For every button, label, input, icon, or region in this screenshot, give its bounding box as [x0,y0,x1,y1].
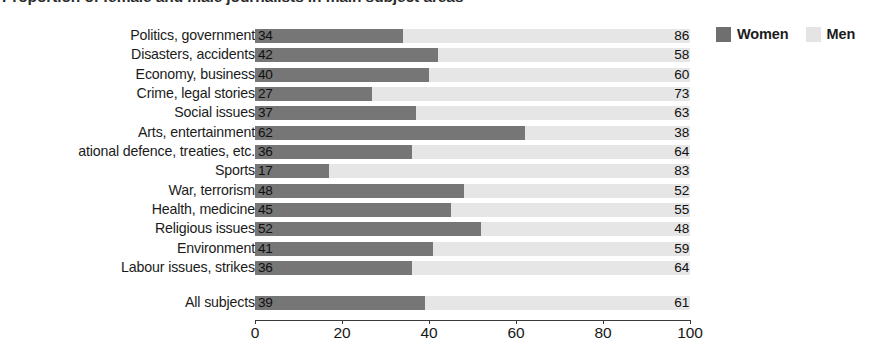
bar-row-cat-3: Crime, legal stories2773 [0,87,892,101]
category-label: All subjects [0,294,255,311]
axis-tick-label: 0 [251,324,259,342]
value-label-men: 52 [651,183,689,199]
bar-row-cat-1: Disasters, accidents4258 [0,48,892,62]
value-label-men: 60 [651,67,689,83]
category-label: ational defence, treaties, etc. [0,143,255,160]
value-label-men: 61 [651,295,689,311]
bar-row-cat-7: Sports1783 [0,164,892,178]
bar-segment-men [255,126,690,140]
bar-segment-men [255,242,690,256]
bar-segment-women [255,222,481,236]
bar-segment-women [255,106,416,120]
value-label-men: 63 [651,105,689,121]
value-label-women: 48 [258,183,273,199]
bar-row-cat-0: Politics, government3486 [0,29,892,43]
category-label: Crime, legal stories [0,85,255,102]
bar-segment-women [255,29,403,43]
category-label: War, terrorism [0,182,255,199]
bar-segment-men [255,145,690,159]
category-label: Politics, government [0,27,255,44]
category-label: Disasters, accidents [0,46,255,63]
bar-row-cat-12: Labour issues, strikes3664 [0,261,892,275]
bar-segment-women [255,145,412,159]
bar-segment-women [255,48,438,62]
bar-segment-men [255,222,690,236]
value-label-women: 17 [258,163,273,179]
bar-row-cat-4: Social issues3763 [0,106,892,120]
axis-tick-label: 60 [508,324,525,342]
value-label-men: 83 [651,163,689,179]
value-label-women: 42 [258,47,273,63]
value-label-men: 48 [651,221,689,237]
bar-row-cat-9: Health, medicine4555 [0,203,892,217]
bar-segment-men [255,261,690,275]
category-label: Economy, business [0,66,255,83]
value-label-men: 58 [651,47,689,63]
bar-segment-men [255,106,690,120]
bar-segment-men [255,296,690,310]
value-label-men: 55 [651,202,689,218]
axis-line [255,320,690,321]
category-label: Social issues [0,104,255,121]
category-label: Environment [0,240,255,257]
bar-segment-men [255,87,690,101]
bar-row-cat-5: Arts, entertainment6238 [0,126,892,140]
bar-segment-women [255,184,464,198]
value-label-men: 59 [651,241,689,257]
bar-row-cat-8: War, terrorism4852 [0,184,892,198]
x-axis: 020406080100 [255,320,690,346]
chart-figure: Proportion of female and male journalist… [0,0,892,348]
value-label-women: 36 [258,260,273,276]
value-label-men: 38 [651,125,689,141]
value-label-men: 86 [651,28,689,44]
bar-segment-men [255,184,690,198]
value-label-women: 27 [258,86,273,102]
axis-tick-label: 100 [677,324,702,342]
value-label-men: 73 [651,86,689,102]
category-label: Labour issues, strikes [0,259,255,276]
value-label-women: 36 [258,144,273,160]
bar-row-all-subjects: All subjects3961 [0,296,892,310]
bar-segment-women [255,242,433,256]
category-label: Arts, entertainment [0,124,255,141]
value-label-women: 41 [258,241,273,257]
value-label-women: 34 [258,28,273,44]
axis-tick-label: 80 [595,324,612,342]
bar-segment-men [255,68,690,82]
bar-segment-women [255,296,425,310]
bar-segment-men [255,29,690,43]
bar-segment-women [255,68,429,82]
value-label-men: 64 [651,144,689,160]
axis-tick-label: 40 [421,324,438,342]
bar-segment-men [255,164,690,178]
bar-segment-men [255,203,690,217]
value-label-women: 40 [258,67,273,83]
category-label: Sports [0,162,255,179]
axis-tick-label: 20 [334,324,351,342]
bar-row-cat-10: Religious issues5248 [0,222,892,236]
plot-area: Politics, government3486Disasters, accid… [0,0,892,348]
value-label-women: 62 [258,125,273,141]
value-label-women: 39 [258,295,273,311]
bar-row-cat-6: ational defence, treaties, etc.3664 [0,145,892,159]
value-label-women: 37 [258,105,273,121]
category-label: Religious issues [0,220,255,237]
value-label-women: 45 [258,202,273,218]
bar-segment-men [255,48,690,62]
category-label: Health, medicine [0,201,255,218]
value-label-women: 52 [258,221,273,237]
bar-segment-women [255,261,412,275]
bar-segment-women [255,203,451,217]
bar-row-cat-11: Environment4159 [0,242,892,256]
value-label-men: 64 [651,260,689,276]
bar-segment-women [255,126,525,140]
bar-row-cat-2: Economy, business4060 [0,68,892,82]
